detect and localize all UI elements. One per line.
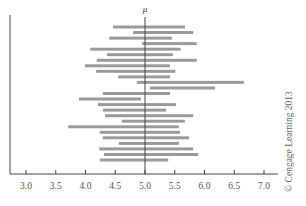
interval-bar (137, 81, 244, 84)
x-tick-label: 3.0 (20, 181, 32, 191)
interval-bar (100, 131, 180, 134)
x-tick-label: 4.0 (80, 181, 92, 191)
x-tick-label: 4.5 (109, 181, 121, 191)
x-tick-label: 6.5 (228, 181, 240, 191)
interval-bar (100, 159, 168, 162)
interval-bar (103, 92, 170, 95)
interval-bar (79, 98, 141, 101)
interval-bar (96, 70, 175, 73)
interval-bar (113, 26, 185, 29)
interval-bar (122, 120, 185, 123)
interval-bar (119, 142, 179, 145)
x-axis-ticks: 3.03.54.04.55.05.56.06.57.0 (20, 170, 270, 191)
x-tick-label: 3.5 (50, 181, 62, 191)
interval-bar (103, 136, 189, 139)
confidence-interval-chart: μ 3.03.54.04.55.05.56.06.57.0 © Cengage … (0, 0, 306, 206)
interval-bar (99, 147, 193, 150)
interval-bar (85, 64, 170, 67)
interval-bar (103, 109, 166, 112)
interval-bar (68, 125, 179, 128)
interval-bar (105, 114, 193, 117)
interval-bar (142, 42, 197, 45)
interval-bar (118, 75, 170, 78)
x-tick-label: 7.0 (258, 181, 270, 191)
interval-bar (97, 59, 197, 62)
x-tick-label: 5.5 (169, 181, 181, 191)
interval-bar (104, 153, 198, 156)
interval-bar (150, 87, 215, 90)
interval-bar (133, 31, 193, 34)
interval-bars (68, 26, 244, 162)
x-tick-label: 5.0 (139, 181, 151, 191)
interval-bar (109, 37, 172, 40)
x-tick-label: 6.0 (199, 181, 211, 191)
interval-bar (90, 48, 180, 51)
interval-bar (107, 53, 173, 56)
mu-label: μ (142, 4, 148, 14)
copyright-credit: © Cengage Learning 2013 (284, 91, 294, 192)
interval-bar (98, 103, 176, 106)
